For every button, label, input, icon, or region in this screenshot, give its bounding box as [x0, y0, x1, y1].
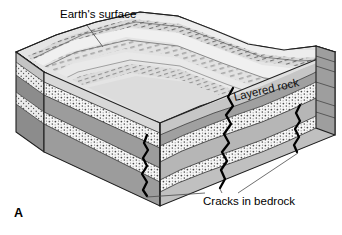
figure-root: Earth's surface Layered rock Cracks in b… — [0, 0, 342, 235]
label-earths-surface: Earth's surface — [60, 9, 136, 21]
label-cracks-in-bedrock: Cracks in bedrock — [203, 196, 295, 208]
leader-crack-center — [220, 189, 222, 193]
panel-label: A — [14, 207, 23, 220]
right-end-face-group — [316, 46, 335, 135]
